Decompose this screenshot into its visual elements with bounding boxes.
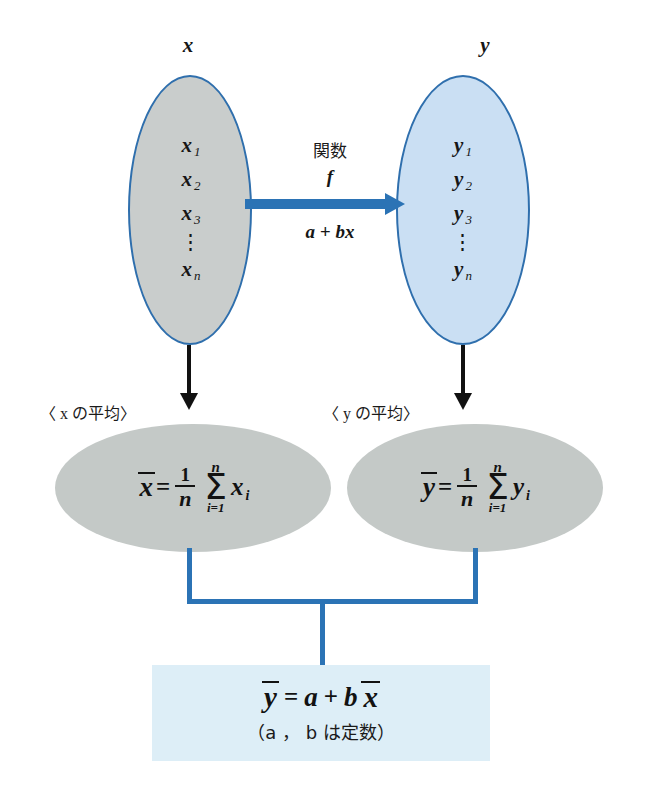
x-member-2: x2	[128, 169, 252, 190]
y-member-1: y1	[400, 135, 524, 156]
x-to-mean-arrowhead	[180, 393, 198, 410]
y-set-title: y	[455, 33, 515, 58]
summation-group: n Σ i=1	[486, 460, 509, 514]
y-member-3: y3	[400, 203, 524, 224]
function-label: 関数	[288, 137, 372, 162]
mapping-arrowhead	[385, 193, 405, 215]
y-equals-sign: =	[438, 473, 452, 501]
diagram-canvas: x x1 x2 x3 ⋮ xn y y1 y2 y3 ⋮ yn	[0, 0, 645, 807]
result-note: （a ， b は定数）	[152, 718, 490, 744]
y-to-mean-arrow-shaft	[461, 345, 465, 395]
x-member-1: x1	[128, 135, 252, 156]
x-to-mean-arrow-shaft	[187, 345, 191, 395]
function-name: f	[288, 166, 372, 188]
bracket-horizontal-line	[187, 599, 478, 604]
summation-group: n Σ i=1	[204, 460, 227, 514]
mapping-arrow-shaft	[245, 199, 385, 209]
y-member-n: yn	[400, 259, 524, 280]
y-mean-formula: y = 1 n n Σ i=1 yi	[347, 452, 603, 522]
x-member-3: x3	[128, 203, 252, 224]
result-y-bar: y	[263, 681, 278, 714]
y-mean-label: 〈 y の平均〉	[323, 400, 419, 424]
x-sub-i-term: xi	[231, 473, 247, 501]
result-formula: y = a + b x	[152, 676, 490, 718]
sigma-icon: Σ	[204, 473, 227, 502]
y-mean-drop-line	[473, 548, 478, 604]
sigma-lower-limit: i=1	[489, 501, 507, 514]
x-mean-label: 〈 x の平均〉	[40, 400, 136, 424]
result-x-bar: x	[362, 681, 379, 714]
fraction-numerator: 1	[181, 465, 191, 485]
x-set-members: x1 x2 x3 ⋮ xn	[128, 135, 252, 280]
x-bar-symbol: x	[139, 472, 155, 503]
y-to-mean-arrowhead	[454, 393, 472, 410]
y-member-2: y2	[400, 169, 524, 190]
x-member-n: xn	[128, 259, 252, 280]
sigma-icon: Σ	[486, 473, 509, 502]
x-member-dots: ⋮	[128, 232, 252, 253]
result-coefficient-a: a	[304, 682, 318, 713]
fraction-denominator: n	[461, 487, 473, 510]
x-equals-sign: =	[156, 473, 170, 501]
fraction-denominator: n	[179, 487, 191, 510]
one-over-n-fraction: 1 n	[175, 465, 195, 510]
result-equals-sign: =	[284, 683, 298, 711]
result-plus-sign: +	[324, 683, 338, 711]
function-expression: a + bx	[283, 221, 377, 243]
bracket-stem-line	[320, 604, 325, 666]
x-set-title: x	[158, 33, 218, 58]
y-set-members: y1 y2 y3 ⋮ yn	[400, 135, 524, 280]
fraction-numerator: 1	[462, 465, 472, 485]
x-mean-drop-line	[187, 548, 192, 604]
one-over-n-fraction: 1 n	[457, 465, 477, 510]
result-coefficient-b: b	[344, 682, 358, 713]
x-mean-formula: x = 1 n n Σ i=1 xi	[55, 452, 331, 522]
y-member-dots: ⋮	[400, 232, 524, 253]
y-sub-i-term: yi	[513, 473, 528, 501]
y-bar-symbol: y	[422, 472, 436, 503]
sigma-lower-limit: i=1	[207, 501, 225, 514]
